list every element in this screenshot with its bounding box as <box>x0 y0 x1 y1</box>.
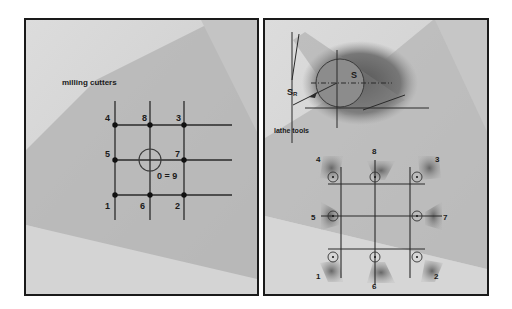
point-label-3: 3 <box>176 113 181 123</box>
point-label-1: 1 <box>105 201 110 211</box>
lathe-label-8: 8 <box>372 147 377 156</box>
point-label-2: 2 <box>175 201 180 211</box>
lathe-label-4: 4 <box>316 155 321 164</box>
point-label-5: 5 <box>105 149 110 159</box>
lathe-label-2: 2 <box>434 272 439 281</box>
lathe-label-6: 6 <box>372 282 377 291</box>
point-label-6: 6 <box>140 201 145 211</box>
lathe-label-7: 7 <box>443 213 448 222</box>
point-label-4: 4 <box>105 113 110 123</box>
lathe-label-3: 3 <box>435 155 440 164</box>
point-label-7: 7 <box>175 149 180 159</box>
center-s-label: S <box>351 70 357 80</box>
milling-cutters-panel: milling cutters 4 8 3 5 7 1 6 2 0 = 9 <box>24 18 259 296</box>
lathe-tools-panel: S SR lathe tools <box>263 18 489 296</box>
point-label-8: 8 <box>142 113 147 123</box>
center-label: 0 = 9 <box>157 171 177 181</box>
lathe-label-5: 5 <box>311 213 316 222</box>
lathe-label-1: 1 <box>316 272 321 281</box>
milling-cutters-diagram: milling cutters 4 8 3 5 7 1 6 2 0 = 9 <box>26 20 259 296</box>
milling-cutters-title: milling cutters <box>62 78 117 87</box>
lathe-tools-title: lathe tools <box>274 127 309 134</box>
lathe-tools-diagram: S SR lathe tools <box>265 20 489 296</box>
